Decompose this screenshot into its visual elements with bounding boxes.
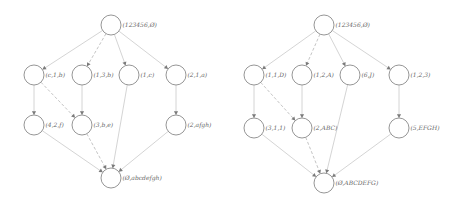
node-label: (1,2,3): [411, 71, 432, 78]
node-label: (3,b,e): [94, 121, 114, 128]
node-label: (c,1,b): [46, 71, 66, 78]
edge-b3-bottom: [119, 131, 168, 171]
lattice-node: (2,afgh): [166, 115, 212, 135]
arrowhead-icon: [325, 169, 329, 173]
arrowhead-icon: [300, 114, 304, 118]
lattice-node: (5,EFGH): [389, 118, 440, 138]
node-label: (2,1,a): [188, 71, 208, 78]
arrowhead-icon: [397, 114, 401, 118]
node-label: (1,1,D): [266, 71, 288, 78]
edge-root-a2: [306, 34, 320, 66]
arrowhead-icon: [80, 111, 84, 115]
node-circle: [314, 173, 334, 193]
node-circle: [166, 65, 186, 85]
node-circle: [292, 65, 312, 85]
node-circle: [389, 65, 409, 85]
arrowhead-icon: [252, 114, 256, 118]
lattice-node: (Ø,abcdefgh): [101, 168, 162, 188]
lattice-node: (1,2,3): [389, 65, 431, 85]
lattice-node: (1,3,b): [72, 65, 114, 85]
node-circle: [166, 115, 186, 135]
arrowhead-icon: [99, 169, 103, 173]
node-circle: [101, 168, 121, 188]
lattice-node: (6,J): [340, 65, 375, 85]
edge-a1-b2: [41, 82, 75, 118]
edge-a1-b2: [261, 82, 296, 120]
edge-root-a4: [332, 31, 390, 70]
arrowhead-icon: [332, 173, 336, 177]
edge-root-a3: [329, 34, 346, 66]
left-lattice-edges: [32, 30, 178, 172]
edges-layer: [32, 30, 401, 177]
node-circle: [244, 118, 264, 138]
arrowhead-icon: [262, 65, 266, 69]
node-circle: [314, 15, 334, 35]
right-lattice-nodes: (123456,Ø)(1,1,D)(1,2,A)(6,J)(1,2,3)(3,1…: [244, 15, 440, 193]
node-label: (3,1,1): [266, 124, 287, 131]
node-label: (123456,Ø): [336, 21, 371, 28]
edge-a3-bottom: [113, 85, 128, 168]
nodes-layer: (123456,Ø)(c,1,b)(1,3,b)(1,c)(2,1,a)(4,2…: [24, 15, 440, 193]
node-circle: [101, 15, 121, 35]
arrowhead-icon: [32, 111, 36, 115]
node-label: (1,3,b): [94, 71, 115, 78]
lattice-node: (1,2,A): [292, 65, 335, 85]
edge-b2-bottom: [306, 137, 321, 173]
node-label: (Ø,abcdefgh): [123, 174, 163, 182]
edge-root-a4: [119, 31, 168, 69]
edge-root-a1: [42, 30, 102, 69]
lattice-node: (3,b,e): [72, 115, 114, 135]
edge-b3-bottom: [332, 134, 391, 177]
node-circle: [72, 115, 92, 135]
concept-lattice-canvas: (123456,Ø)(c,1,b)(1,3,b)(1,c)(2,1,a)(4,2…: [0, 0, 464, 200]
lattice-node: (Ø,ABCDEFG): [314, 173, 379, 193]
edge-root-a3: [114, 34, 125, 65]
arrowhead-icon: [164, 65, 168, 69]
arrowhead-icon: [87, 62, 91, 66]
node-circle: [389, 118, 409, 138]
node-label: (6,J): [362, 71, 375, 79]
node-label: (1,2,A): [314, 71, 335, 78]
edge-b1-bottom: [262, 134, 316, 177]
arrowhead-icon: [71, 114, 75, 118]
lattice-node: (2,ABC): [292, 118, 338, 138]
node-label: (1,c): [141, 71, 155, 78]
node-label: (Ø,ABCDEFG): [336, 179, 379, 186]
node-circle: [340, 65, 360, 85]
edge-b1-bottom: [42, 131, 103, 173]
node-circle: [244, 65, 264, 85]
lattice-node: (2,1,a): [166, 65, 208, 85]
node-circle: [24, 65, 44, 85]
node-label: (2,ABC): [314, 124, 339, 131]
node-circle: [119, 65, 139, 85]
left-lattice-nodes: (123456,Ø)(c,1,b)(1,3,b)(1,c)(2,1,a)(4,2…: [24, 15, 212, 188]
arrowhead-icon: [111, 164, 115, 168]
lattice-node: (123456,Ø): [101, 15, 158, 35]
node-label: (123456,Ø): [123, 21, 158, 28]
node-circle: [72, 65, 92, 85]
right-lattice-edges: [252, 31, 401, 178]
node-label: (2,afgh): [188, 121, 213, 129]
node-label: (5,EFGH): [411, 124, 441, 131]
node-circle: [292, 118, 312, 138]
lattice-node: (1,c): [119, 65, 155, 85]
arrowhead-icon: [174, 111, 178, 115]
lattice-node: (123456,Ø): [314, 15, 371, 35]
node-label: (4,2,f): [46, 121, 65, 129]
lattice-node: (3,1,1): [244, 118, 286, 138]
node-circle: [24, 115, 44, 135]
edge-b2-bottom: [87, 134, 106, 169]
